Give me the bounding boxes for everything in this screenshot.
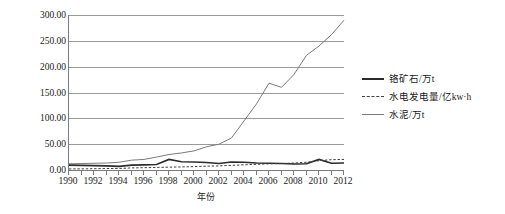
y-axis-tick-label: 250.00 <box>22 36 66 46</box>
y-axis-tick-labels: 0.0050.00100.00150.00200.00250.00300.00 <box>22 10 66 170</box>
x-axis-tick <box>131 171 132 175</box>
legend-line-icon-hydropower <box>362 92 384 102</box>
x-axis-tick <box>93 171 94 175</box>
legend-line-icon-cement <box>362 110 384 120</box>
legend-label-cement: 水泥/万t <box>389 109 424 121</box>
line-chart: 工业产品供给功能 0.0050.00100.00150.00200.00250.… <box>0 0 505 214</box>
x-axis-tick <box>118 171 119 175</box>
x-axis-tick <box>218 171 219 175</box>
x-axis-tick-label: 2012 <box>327 176 359 187</box>
x-axis-tick <box>268 171 269 175</box>
x-axis-tick <box>293 171 294 175</box>
y-axis-tick-label: 300.00 <box>22 10 66 20</box>
y-axis-tick-label: 200.00 <box>22 62 66 72</box>
x-axis-tick <box>181 171 182 175</box>
x-axis-tick <box>343 171 344 175</box>
legend-label-chromite: 铬矿石/万t <box>389 73 434 85</box>
x-axis-tick <box>168 171 169 175</box>
legend-line-icon-chromite <box>362 74 384 84</box>
x-axis-tick <box>256 171 257 175</box>
x-axis-tick <box>331 171 332 175</box>
x-axis-title: 年份 <box>68 190 344 203</box>
legend-item-hydropower: 水电发电量/亿kw·h <box>362 88 502 106</box>
x-axis-tick <box>106 171 107 175</box>
series-lines <box>69 15 344 170</box>
x-axis-tick <box>68 171 69 175</box>
legend: 铬矿石/万t 水电发电量/亿kw·h 水泥/万t <box>362 70 502 124</box>
x-axis-tick <box>231 171 232 175</box>
legend-item-chromite: 铬矿石/万t <box>362 70 502 88</box>
x-axis-tick-labels: 1990199219941996199820002002200420062008… <box>68 176 344 188</box>
y-axis-tick-label: 150.00 <box>22 88 66 98</box>
x-axis-tick <box>243 171 244 175</box>
x-axis-tick <box>156 171 157 175</box>
x-axis-ticks <box>68 171 344 175</box>
x-axis-tick <box>206 171 207 175</box>
x-axis-tick <box>306 171 307 175</box>
x-axis-tick <box>143 171 144 175</box>
series-line-cement <box>69 20 344 164</box>
x-axis-tick <box>281 171 282 175</box>
y-axis-tick-label: 0.00 <box>22 165 66 175</box>
plot-area <box>68 15 344 170</box>
x-axis-tick <box>193 171 194 175</box>
x-axis-tick <box>318 171 319 175</box>
y-axis-tick-label: 50.00 <box>22 139 66 149</box>
legend-item-cement: 水泥/万t <box>362 106 502 124</box>
legend-label-hydropower: 水电发电量/亿kw·h <box>389 91 471 103</box>
x-axis-tick <box>81 171 82 175</box>
y-axis-tick-label: 100.00 <box>22 113 66 123</box>
